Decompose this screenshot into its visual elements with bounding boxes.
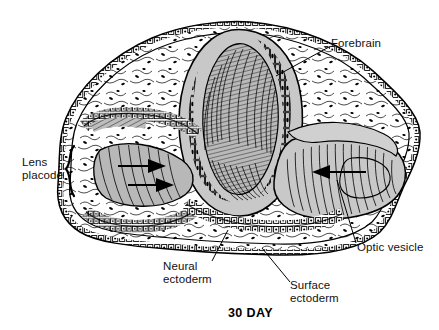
label-neural-ectoderm-line1: Neural (163, 260, 197, 272)
label-neural-ectoderm-line2: ectoderm (163, 273, 212, 285)
eye-development-illustration (0, 0, 439, 330)
label-lens-placode-line1: Lens (22, 156, 47, 168)
label-lens-placode-line2: placode (22, 169, 63, 181)
label-surface-ectoderm-line1: Surface (290, 279, 330, 291)
figure-container: Forebrain Lensplacode Optic vesicle Neur… (0, 0, 439, 330)
label-neural-ectoderm: Neuralectoderm (163, 260, 212, 285)
label-lens-placode: Lensplacode (22, 156, 63, 181)
label-surface-ectoderm: Surfaceectoderm (290, 279, 339, 304)
optic-vesicle-right (274, 122, 406, 218)
label-surface-ectoderm-line2: ectoderm (290, 292, 339, 304)
figure-caption: 30 DAY (228, 306, 273, 320)
label-forebrain: Forebrain (331, 37, 381, 50)
label-optic-vesicle: Optic vesicle (357, 241, 424, 254)
